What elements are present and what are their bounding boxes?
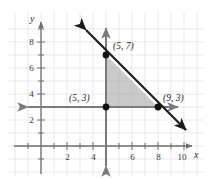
graph-figure: y x 8 6 4 2 2 4 6 8 10 (5, 7) (5, 3) (9,… [0, 0, 209, 180]
x-tick-label-10: 10 [174, 153, 190, 162]
x-tick-label-8: 8 [153, 153, 164, 162]
x-tick-label-6: 6 [127, 153, 138, 162]
x-axis-label: x [194, 150, 198, 160]
point-5-7 [103, 52, 110, 59]
point-label-9-3: (9, 3) [163, 94, 184, 104]
y-axis-label: y [30, 14, 34, 24]
y-tick-label-4: 4 [26, 90, 37, 99]
point-label-5-3: (5, 3) [69, 94, 90, 104]
x-tick-label-4: 4 [88, 153, 99, 162]
point-label-5-7: (5, 7) [113, 42, 134, 52]
y-tick-label-6: 6 [26, 64, 37, 73]
point-5-3 [103, 104, 110, 111]
y-tick-label-8: 8 [26, 38, 37, 47]
y-tick-label-2: 2 [26, 116, 37, 125]
point-9-3 [155, 104, 162, 111]
x-tick-label-2: 2 [62, 153, 73, 162]
